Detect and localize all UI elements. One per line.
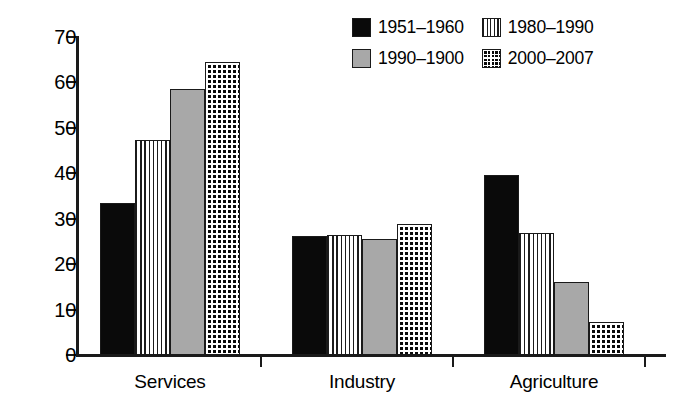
x-axis-category-label: Services bbox=[134, 372, 205, 391]
bar bbox=[589, 322, 624, 355]
bar bbox=[170, 89, 205, 355]
bar bbox=[100, 203, 135, 355]
bar bbox=[135, 140, 170, 355]
bar bbox=[554, 282, 589, 355]
x-axis-line bbox=[76, 354, 666, 357]
bar bbox=[397, 224, 432, 355]
bar-chart: 1951–1960 1980–1990 1990–1900 2000–2007 … bbox=[0, 0, 697, 414]
bar bbox=[484, 175, 519, 355]
bar bbox=[362, 239, 397, 355]
bar bbox=[519, 233, 554, 355]
x-axis-tick-mark bbox=[260, 356, 262, 367]
bar bbox=[327, 235, 362, 355]
bar bbox=[292, 236, 327, 355]
x-axis-category-label: Agriculture bbox=[510, 372, 599, 391]
bar bbox=[205, 62, 240, 355]
plot-area bbox=[0, 0, 697, 355]
x-axis-tick-mark bbox=[644, 356, 646, 367]
x-axis-category-label: Industry bbox=[329, 372, 395, 391]
x-axis-tick-mark bbox=[452, 356, 454, 367]
